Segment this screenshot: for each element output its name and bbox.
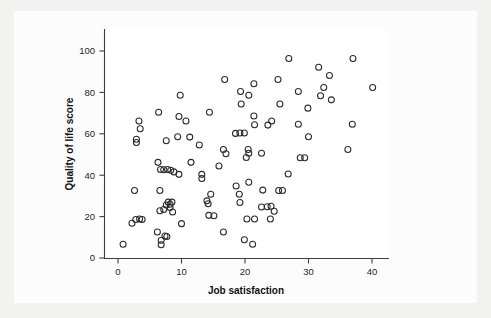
y-tick-label: 40 bbox=[84, 170, 95, 181]
y-tick-label: 20 bbox=[84, 211, 95, 222]
y-axis-title: Quality of life score bbox=[64, 97, 75, 190]
y-axis-ticks: 020406080100 bbox=[79, 45, 104, 263]
y-tick-label: 60 bbox=[84, 128, 95, 139]
y-tick-label: 100 bbox=[79, 45, 95, 56]
plot-background bbox=[104, 30, 389, 258]
x-tick-label: 20 bbox=[240, 266, 251, 277]
x-tick-label: 10 bbox=[176, 266, 187, 277]
y-tick-label: 80 bbox=[84, 87, 95, 98]
x-axis-title: Job satisfaction bbox=[208, 285, 284, 296]
x-tick-label: 30 bbox=[303, 266, 314, 277]
y-tick-label: 0 bbox=[90, 252, 95, 263]
figure-background: 010203040 020406080100 Job satisfaction … bbox=[0, 0, 491, 318]
x-tick-label: 40 bbox=[367, 266, 378, 277]
scatter-plot: 010203040 020406080100 Job satisfaction … bbox=[0, 0, 491, 318]
x-axis-ticks: 010203040 bbox=[115, 259, 377, 278]
x-tick-label: 0 bbox=[115, 266, 120, 277]
scatter-chart-svg: 010203040 020406080100 Job satisfaction … bbox=[0, 0, 491, 318]
